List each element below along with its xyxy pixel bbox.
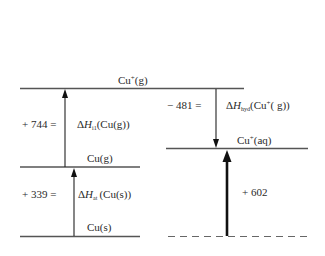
arrowhead-up-icon — [223, 150, 232, 162]
label-cu-plus-g: Cu+(g) — [118, 75, 148, 86]
label-text: Cu — [237, 134, 250, 146]
label-value-602: + 602 — [242, 187, 267, 198]
species-text: (Cu(s)) — [99, 188, 131, 200]
label-dh-at: ΔHat(Cu(s)) — [78, 189, 131, 200]
label-cu-s: Cu(s) — [87, 222, 111, 233]
arrowhead-down-icon — [213, 139, 219, 148]
subscript: at — [93, 195, 97, 201]
state-text: (g) — [135, 74, 148, 86]
label-value-481: − 481 = — [167, 100, 201, 111]
h-symbol: H — [233, 99, 241, 111]
species-text: ( g)) — [270, 99, 289, 111]
label-dh-i1: ΔHi1(Cu(g)) — [77, 119, 130, 130]
species-text: (Cu(g)) — [97, 118, 130, 130]
state-text: (aq) — [254, 134, 272, 146]
h-symbol: H — [84, 118, 92, 130]
label-cu-g: Cu(g) — [87, 153, 113, 164]
arrowhead-up-icon — [62, 89, 68, 98]
subscript: hyd — [241, 106, 250, 112]
label-cu-plus-aq: Cu+(aq) — [237, 135, 272, 146]
h-symbol: H — [85, 188, 93, 200]
label-value-744: + 744 = — [22, 119, 56, 130]
label-dh-hyd: ΔHhyd(Cu+( g)) — [226, 100, 290, 111]
species-text: (Cu — [250, 99, 267, 111]
label-value-339: + 339 = — [22, 189, 56, 200]
arrowhead-up-icon — [71, 168, 77, 177]
label-text: Cu — [118, 74, 131, 86]
